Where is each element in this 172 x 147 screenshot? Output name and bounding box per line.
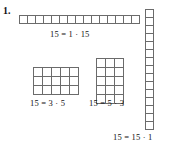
unit-square <box>146 74 154 82</box>
unit-square <box>106 86 115 95</box>
unit-square <box>61 68 70 77</box>
unit-square <box>146 98 154 106</box>
unit-square <box>70 77 79 86</box>
unit-square <box>70 68 79 77</box>
unit-square <box>146 82 154 90</box>
caption-5x3: 15 = 5 · 3 <box>89 98 124 108</box>
unit-square <box>43 77 52 86</box>
unit-square <box>28 16 36 24</box>
unit-square <box>146 114 154 122</box>
unit-square <box>146 66 154 74</box>
unit-square <box>97 59 106 68</box>
unit-square <box>52 86 61 95</box>
array-1x15 <box>19 15 140 24</box>
unit-square <box>115 86 124 95</box>
unit-square <box>84 16 92 24</box>
unit-square <box>20 16 28 24</box>
unit-square <box>52 68 61 77</box>
unit-square <box>106 59 115 68</box>
unit-square <box>97 86 106 95</box>
caption-15x1: 15 = 15 · 1 <box>113 132 153 142</box>
unit-square <box>36 16 44 24</box>
unit-square <box>115 77 124 86</box>
unit-square <box>43 68 52 77</box>
unit-square <box>146 10 154 18</box>
unit-square <box>52 77 61 86</box>
unit-square <box>106 68 115 77</box>
unit-square <box>43 86 52 95</box>
unit-square <box>44 16 52 24</box>
unit-square <box>76 16 84 24</box>
unit-square <box>116 16 124 24</box>
unit-square <box>52 16 60 24</box>
unit-square <box>100 16 108 24</box>
unit-square <box>97 77 106 86</box>
unit-square <box>146 18 154 26</box>
unit-square <box>132 16 140 24</box>
unit-square <box>115 59 124 68</box>
unit-square <box>68 16 76 24</box>
unit-square <box>108 16 116 24</box>
unit-square <box>146 106 154 114</box>
unit-square <box>146 122 154 130</box>
unit-square <box>70 86 79 95</box>
unit-square <box>34 68 43 77</box>
unit-square <box>60 16 68 24</box>
unit-square <box>61 86 70 95</box>
unit-square <box>124 16 132 24</box>
unit-square <box>146 90 154 98</box>
unit-square <box>146 34 154 42</box>
caption-3x5: 15 = 3 · 5 <box>30 98 65 108</box>
unit-square <box>115 68 124 77</box>
array-3x5 <box>33 67 79 95</box>
unit-square <box>146 58 154 66</box>
unit-square <box>146 42 154 50</box>
unit-square <box>34 86 43 95</box>
unit-square <box>92 16 100 24</box>
unit-square <box>61 77 70 86</box>
unit-square <box>146 50 154 58</box>
unit-square <box>106 77 115 86</box>
unit-square <box>34 77 43 86</box>
caption-1x15: 15 = 1 · 15 <box>50 29 90 39</box>
array-15x1 <box>145 9 154 130</box>
factorization-figure: 1. 15 = 1 · 15 15 = 3 · 5 15 = 5 · 3 15 … <box>0 0 172 147</box>
unit-square <box>97 68 106 77</box>
item-number: 1. <box>3 6 11 16</box>
unit-square <box>146 26 154 34</box>
